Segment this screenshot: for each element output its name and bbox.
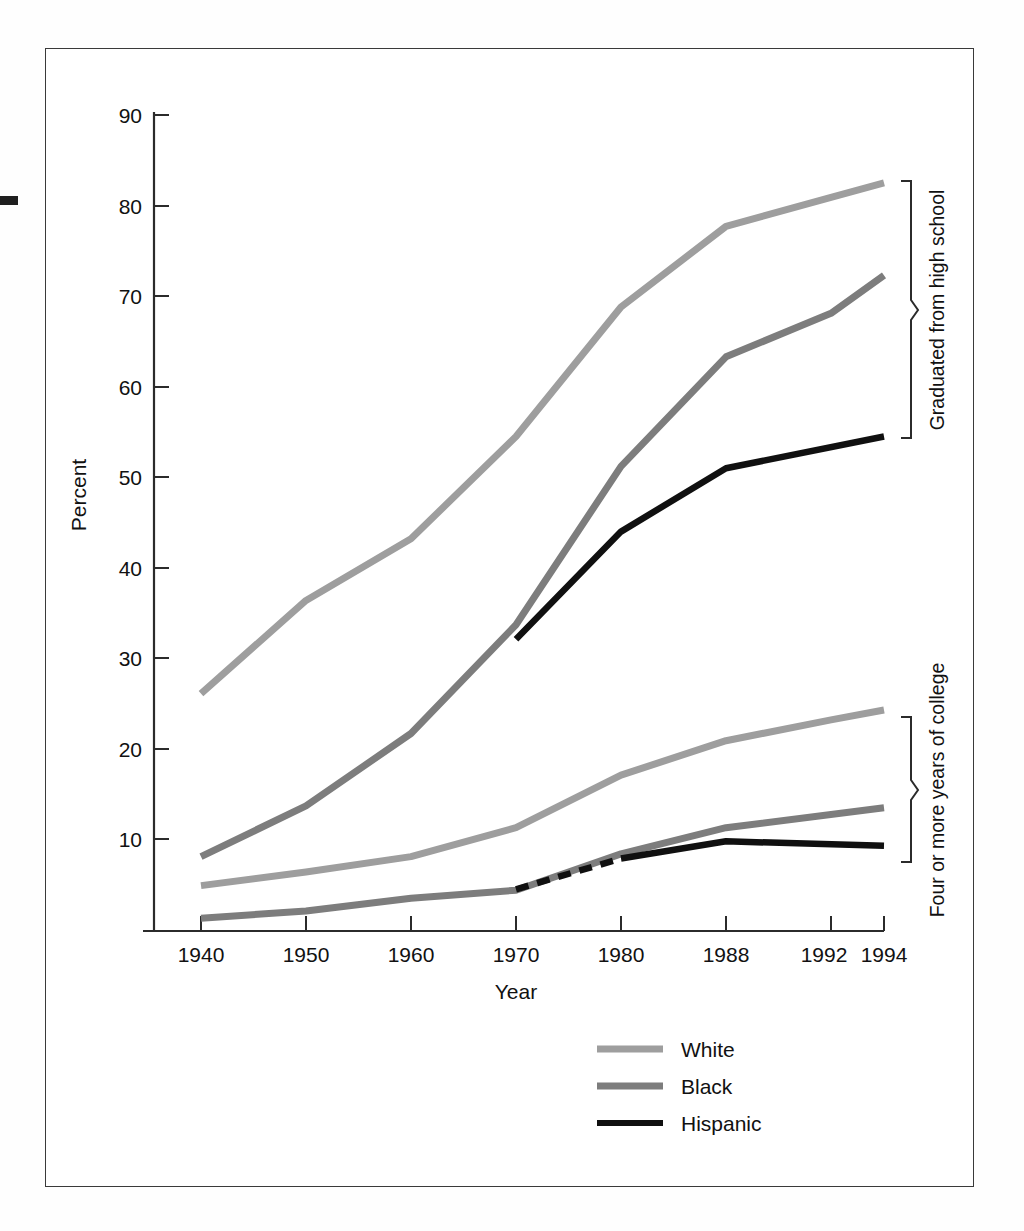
y-tick-label-10: 10 bbox=[119, 828, 142, 851]
legend-label-white: White bbox=[681, 1038, 735, 1061]
x-tick-label-1960: 1960 bbox=[388, 943, 435, 966]
series-layer bbox=[201, 183, 884, 918]
y-axis-ticks bbox=[154, 115, 169, 839]
y-axis: 90 80 70 60 50 40 30 20 10 Percent bbox=[67, 104, 169, 931]
legend-label-hispanic: Hispanic bbox=[681, 1112, 762, 1135]
y-tick-label-20: 20 bbox=[119, 738, 142, 761]
bracket-label-high-school: Graduated from high school bbox=[926, 190, 948, 431]
series-black-college bbox=[201, 808, 884, 918]
x-tick-label-1970: 1970 bbox=[493, 943, 540, 966]
x-axis-ticks bbox=[201, 916, 884, 931]
page-canvas: 90 80 70 60 50 40 30 20 10 Percent 1 bbox=[0, 0, 1024, 1231]
line-chart: 90 80 70 60 50 40 30 20 10 Percent 1 bbox=[0, 0, 1024, 1231]
x-tick-label-1950: 1950 bbox=[283, 943, 330, 966]
x-tick-label-1994: 1994 bbox=[861, 943, 908, 966]
legend-item-white: White bbox=[597, 1038, 735, 1061]
y-tick-label-50: 50 bbox=[119, 466, 142, 489]
legend-item-black: Black bbox=[597, 1075, 733, 1098]
y-tick-label-70: 70 bbox=[119, 285, 142, 308]
y-tick-label-60: 60 bbox=[119, 376, 142, 399]
y-axis-title: Percent bbox=[67, 459, 90, 532]
y-tick-label-40: 40 bbox=[119, 557, 142, 580]
series-white-high-school bbox=[201, 183, 884, 694]
x-axis-title: Year bbox=[495, 980, 537, 1003]
bracket-four-or-more-years-college: Four or more years of college bbox=[901, 663, 948, 918]
x-tick-label-1940: 1940 bbox=[178, 943, 225, 966]
bracket-label-college: Four or more years of college bbox=[926, 663, 948, 918]
x-axis: 1940 1950 1960 1970 1980 1988 1992 1994 … bbox=[143, 916, 908, 1003]
y-tick-label-80: 80 bbox=[119, 195, 142, 218]
x-tick-label-1980: 1980 bbox=[598, 943, 645, 966]
series-hispanic-college bbox=[516, 841, 884, 889]
series-black-high-school bbox=[201, 275, 884, 856]
x-tick-label-1988: 1988 bbox=[703, 943, 750, 966]
series-white-college bbox=[201, 710, 884, 886]
x-tick-label-1992: 1992 bbox=[801, 943, 848, 966]
legend-label-black: Black bbox=[681, 1075, 733, 1098]
legend-item-hispanic: Hispanic bbox=[597, 1112, 762, 1135]
y-tick-label-30: 30 bbox=[119, 647, 142, 670]
bracket-graduated-high-school: Graduated from high school bbox=[901, 181, 948, 438]
y-tick-label-90: 90 bbox=[119, 104, 142, 127]
chart-legend: White Black Hispanic bbox=[597, 1038, 762, 1135]
